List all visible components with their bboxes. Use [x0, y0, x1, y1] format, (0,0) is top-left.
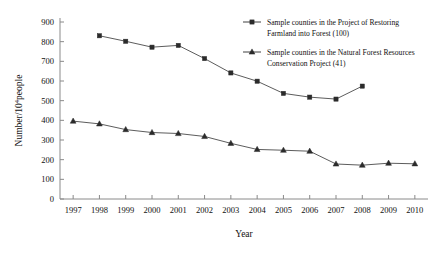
legend-label-line1: Sample counties in the Project of Restor…	[267, 18, 399, 27]
x-tick-label: 2009	[380, 205, 397, 215]
y-tick-label: 400	[41, 115, 54, 125]
data-point	[255, 79, 259, 83]
legend-label-line1: Sample counties in the Natural Forest Re…	[267, 48, 415, 57]
x-tick-label: 2005	[275, 205, 292, 215]
series-2	[70, 118, 418, 167]
y-tick-label: 800	[41, 37, 54, 47]
data-point	[334, 97, 338, 101]
data-point	[97, 34, 101, 38]
y-tick-label: 300	[41, 135, 54, 145]
y-axis-title: Number/104people	[13, 75, 24, 147]
data-point	[176, 43, 180, 47]
y-tick-label: 600	[41, 76, 54, 86]
x-tick-label: 2008	[354, 205, 371, 215]
chart-container: 0100200300400500600700800900199719981999…	[0, 0, 438, 253]
legend-item-1[interactable]: Sample counties in the Project of Restor…	[243, 18, 399, 38]
legend-item-2[interactable]: Sample counties in the Natural Forest Re…	[243, 48, 415, 68]
x-tick-label: 2006	[301, 205, 318, 215]
line-chart: 0100200300400500600700800900199719981999…	[0, 0, 438, 253]
data-point	[412, 161, 418, 166]
y-tick-label: 200	[41, 155, 54, 165]
y-axis-title-text: Number/104people	[13, 75, 24, 147]
y-tick-label: 900	[41, 17, 54, 27]
legend-label-line2: Farmland into Forest (100)	[267, 29, 350, 38]
x-tick-label: 2002	[196, 205, 213, 215]
x-axis-ticks: 1997199819992000200120022003200420052006…	[65, 195, 424, 215]
y-axis-ticks: 0100200300400500600700800900	[41, 17, 64, 204]
x-tick-label: 2007	[328, 205, 345, 215]
x-axis-title: Year	[235, 229, 253, 239]
axes	[60, 18, 428, 199]
x-tick-label: 2000	[144, 205, 161, 215]
y-tick-label: 500	[41, 96, 54, 106]
y-axis-title-suffix: people	[14, 75, 24, 100]
data-point	[308, 95, 312, 99]
y-axis-title-base: Number/10	[14, 103, 24, 147]
data-point	[360, 84, 364, 88]
series-line-2	[73, 121, 415, 165]
data-point	[150, 45, 154, 49]
legend-marker-triangle	[249, 49, 255, 54]
data-point	[229, 71, 233, 75]
y-tick-label: 0	[50, 194, 54, 204]
x-tick-label: 2003	[222, 205, 239, 215]
x-tick-label: 1998	[91, 205, 108, 215]
y-tick-label: 100	[41, 174, 54, 184]
y-tick-label: 700	[41, 56, 54, 66]
legend-label-line2: Conservation Project (41)	[267, 59, 346, 68]
x-tick-label: 2001	[170, 205, 187, 215]
data-point	[386, 160, 392, 165]
x-tick-label: 1999	[117, 205, 134, 215]
legend-marker-square	[250, 20, 254, 24]
data-point	[202, 56, 206, 60]
legend: Sample counties in the Project of Restor…	[243, 18, 415, 68]
data-point	[124, 39, 128, 43]
x-tick-label: 2010	[406, 205, 423, 215]
data-point	[281, 91, 285, 95]
x-tick-label: 2004	[249, 205, 267, 215]
data-point	[70, 118, 76, 123]
x-tick-label: 1997	[65, 205, 82, 215]
